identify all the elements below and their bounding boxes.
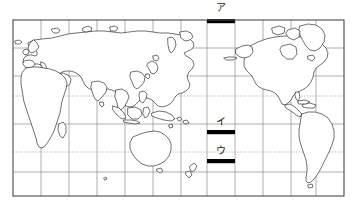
marker-label-u: ウ (216, 146, 226, 156)
marker-label-a: ア (216, 3, 226, 13)
marker-bar-i[interactable] (207, 130, 235, 134)
marker-bar-u[interactable] (207, 159, 235, 163)
pacific-islets-small (169, 124, 173, 128)
marker-label-i: イ (216, 117, 226, 127)
map-figure: ア イ ウ (0, 0, 357, 213)
tierra-del-fuego-island (308, 184, 313, 188)
british-isles (23, 49, 29, 55)
pacific-islet-south (104, 177, 107, 180)
world-map-svg (0, 0, 357, 213)
